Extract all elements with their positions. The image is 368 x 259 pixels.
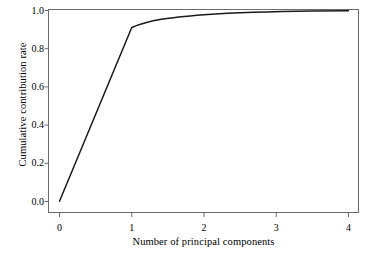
x-tick-label-4: 4 [339,223,359,233]
x-axis-tick-labels: 0 1 2 3 4 [0,0,368,259]
chart-figure: 0.0 0.2 0.4 0.6 0.8 1.0 0 1 2 3 4 Cumula… [0,0,368,259]
x-tick-label-2: 2 [194,223,214,233]
x-tick-label-1: 1 [122,223,142,233]
x-tick-label-3: 3 [266,223,286,233]
x-axis-title: Number of principal components [59,236,348,247]
y-axis-title: Cumulative contribution rate [15,0,31,212]
x-tick-label-0: 0 [50,223,70,233]
